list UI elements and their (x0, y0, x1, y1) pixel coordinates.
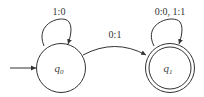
transition-label-q0-q1: 0:1 (109, 29, 122, 40)
transition-label-q0-q0: 1:0 (53, 6, 66, 17)
self-loop-q0 (42, 19, 71, 46)
self-loop-q1 (151, 19, 182, 46)
transition-label-q1-q1: 0:0, 1:1 (155, 6, 186, 17)
state-q1: q1 (146, 44, 195, 93)
transition-q0-q1 (83, 47, 146, 56)
state-q0: q0 (37, 44, 86, 93)
state-diagram: 1:0 0:1 0:0, 1:1 q0 q1 (0, 0, 204, 97)
